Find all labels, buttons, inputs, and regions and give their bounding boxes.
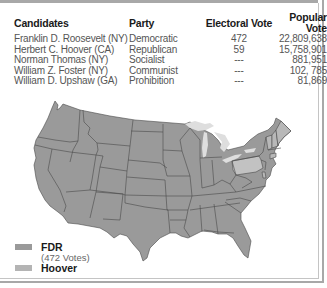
continental-us-fdr (34, 101, 291, 261)
fdr-swatch (15, 244, 32, 250)
legend-item-fdr: FDR (15, 242, 90, 252)
state-delaware-hoover (262, 172, 266, 178)
state-connecticut-hoover (270, 153, 276, 159)
legend-label-hoover: Hoover (41, 262, 77, 274)
map-legend: FDR (472 Votes) Hoover (15, 242, 90, 273)
legend-item-hoover: Hoover (15, 263, 90, 273)
hoover-swatch (15, 265, 32, 271)
